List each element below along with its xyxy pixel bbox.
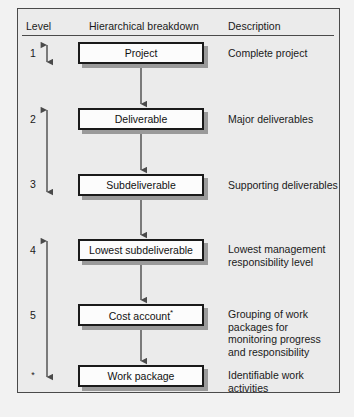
node-subdeliverable-label: Subdeliverable	[106, 179, 175, 191]
node-cost-account[interactable]: Cost account*	[78, 304, 204, 326]
node-deliverable-label: Deliverable	[115, 113, 168, 125]
description-cost-account: Grouping of work packages for monitoring…	[228, 308, 340, 358]
level-number-1: 1	[26, 47, 40, 59]
node-cost-account-text: Cost account	[109, 310, 170, 322]
description-deliverable: Major deliverables	[228, 113, 340, 126]
column-header-hierarchical-breakdown: Hierarchical breakdown	[89, 20, 199, 32]
header-divider-rule	[22, 35, 334, 36]
node-cost-account-asterisk: *	[170, 308, 173, 317]
node-work-package[interactable]: Work package	[78, 365, 204, 387]
node-cost-account-label: Cost account*	[109, 308, 173, 322]
column-header-description: Description	[228, 20, 281, 32]
description-lowest-subdeliverable: Lowest management responsibility level	[228, 243, 340, 268]
wbs-diagram-page: Level Hierarchical breakdown Description…	[0, 0, 354, 417]
description-work-package: Identifiable work activities	[228, 369, 340, 394]
node-lowest-subdeliverable-label: Lowest subdeliverable	[89, 244, 193, 256]
level-number-5: 5	[26, 309, 40, 321]
level-number-3: 3	[26, 178, 40, 190]
level-number-2: 2	[26, 113, 40, 125]
node-deliverable[interactable]: Deliverable	[78, 108, 204, 130]
node-subdeliverable[interactable]: Subdeliverable	[78, 174, 204, 196]
level-number-footnote-marker: *	[26, 370, 40, 380]
node-work-package-label: Work package	[108, 370, 175, 382]
node-lowest-subdeliverable[interactable]: Lowest subdeliverable	[78, 239, 204, 261]
node-project[interactable]: Project	[78, 42, 204, 64]
column-header-level: Level	[26, 20, 51, 32]
description-subdeliverable: Supporting deliverables	[228, 179, 340, 192]
node-project-label: Project	[125, 47, 158, 59]
description-project: Complete project	[228, 47, 340, 60]
level-number-4: 4	[26, 244, 40, 256]
